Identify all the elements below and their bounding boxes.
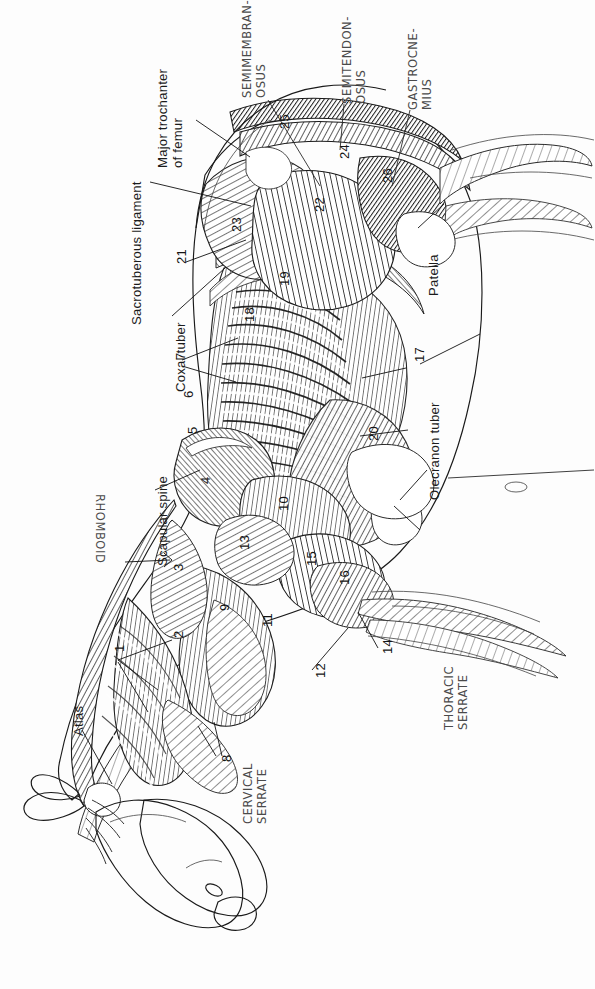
key-number-14: 14	[381, 639, 396, 654]
key-number-20: 20	[367, 426, 382, 441]
key-number-10: 10	[277, 496, 292, 511]
key-number-21: 21	[175, 249, 190, 264]
key-number-25: 25	[278, 114, 293, 129]
illustration-page: Major trochanter of femur Sacrotuberous …	[0, 0, 595, 989]
key-number-4: 4	[199, 477, 214, 484]
key-number-8: 8	[220, 755, 235, 762]
key-number-7: 7	[174, 353, 189, 360]
key-number-11: 11	[261, 613, 276, 627]
anatomy-figure	[0, 0, 595, 989]
key-number-13: 13	[238, 535, 253, 550]
label-atlas: Atlas	[72, 706, 87, 736]
key-number-16: 16	[338, 570, 353, 585]
key-number-2: 2	[172, 631, 187, 638]
anatomy-drawing	[0, 0, 595, 989]
label-olecranon-tuber: Olecranon tuber	[428, 402, 443, 500]
handlabel-gastrocnemius: GASTROCNE- MIUS	[406, 28, 435, 110]
key-number-17: 17	[413, 347, 428, 362]
handlabel-rhomboid: RHOMBOID	[93, 494, 107, 563]
key-number-18: 18	[243, 307, 258, 322]
key-number-5: 5	[186, 427, 201, 434]
label-scapular-spine: Scapular spine	[156, 476, 171, 566]
handlabel-semimembranosus: SEMIMEMBRAN- OSUS	[240, 0, 269, 98]
key-number-24: 24	[338, 144, 353, 159]
key-number-6: 6	[182, 391, 197, 398]
handlabel-thoracic-serrate: THORACIC SERRATE	[442, 666, 471, 730]
label-major-trochanter: Major trochanter of femur	[155, 69, 185, 168]
key-number-12: 12	[314, 663, 329, 678]
key-number-22: 22	[313, 197, 328, 212]
handlabel-semitendinosus: SEMITENDON- OSUS	[340, 16, 369, 104]
label-patella: Patella	[427, 254, 442, 296]
key-number-23: 23	[230, 217, 245, 232]
key-number-1: 1	[113, 645, 128, 652]
key-number-3: 3	[172, 564, 187, 571]
key-number-15: 15	[305, 551, 320, 566]
key-number-26: 26	[381, 168, 396, 183]
handlabel-cervical-serrate: CERVICAL SERRATE	[241, 763, 270, 824]
key-number-9: 9	[218, 604, 233, 611]
head-group	[24, 775, 267, 931]
label-sacrotuberous-ligament: Sacrotuberous ligament	[130, 181, 145, 325]
key-number-19: 19	[278, 271, 293, 286]
